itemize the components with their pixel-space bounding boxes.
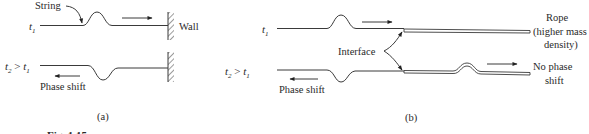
rope-transmitted-pulse: [404, 63, 530, 75]
string-label: String: [35, 0, 61, 11]
rope-label-line2: (higher mass: [533, 26, 587, 38]
string-incident-pulse: [40, 12, 168, 26]
interface-arrow-down-icon: [384, 51, 402, 70]
phase-shift-label: Phase shift: [279, 84, 325, 95]
rope-heavy: [404, 29, 530, 33]
no-phase-shift-label: No phase: [533, 61, 573, 72]
rope-label: Rope: [546, 12, 569, 23]
wall-hatch: [168, 12, 174, 40]
figure-caption: Fig. 1.15: [47, 129, 88, 134]
time-label-t1: t1: [29, 20, 36, 35]
wall-label: Wall: [179, 21, 199, 32]
panel-b: t1 Rope (higher mass density) Interface …: [225, 12, 587, 124]
phase-shift-label: Phase shift: [40, 81, 86, 92]
time-label-t1: t1: [262, 23, 269, 38]
no-phase-shift-label-line2: shift: [545, 75, 564, 86]
interface-arrow-up-icon: [384, 32, 402, 51]
string-reflected-inverted-pulse: [40, 66, 168, 81]
time-label-t2-gt-t1: t2 > t1: [5, 60, 30, 75]
rope-label-line3: density): [544, 39, 578, 51]
panel-a-label: (a): [97, 111, 109, 123]
interface-label: Interface: [338, 46, 376, 57]
panel-a: t1 String Wall t2 > t1 Phase shift (a): [5, 0, 199, 123]
light-string-reflected-inverted-pulse: [277, 70, 404, 82]
wall-hatch: [168, 52, 174, 82]
wave-reflection-diagram: t1 String Wall t2 > t1 Phase shift (a) t…: [0, 0, 589, 134]
time-label-t2-gt-t1: t2 > t1: [225, 65, 250, 80]
string-pointer-arrow-icon: [66, 6, 82, 23]
panel-b-label: (b): [405, 112, 418, 124]
